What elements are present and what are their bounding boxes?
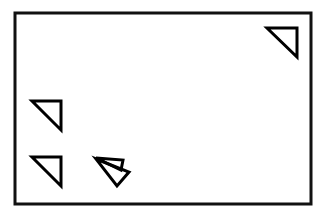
triangle-bottom-left bbox=[32, 157, 61, 186]
triangle-top-right bbox=[267, 28, 297, 57]
triangle-left-middle bbox=[32, 101, 61, 130]
figure-canvas: Line drawing of a rectangular frame cont… bbox=[0, 0, 322, 217]
outer-rectangle bbox=[15, 13, 311, 204]
shapes-figure: Line drawing of a rectangular frame cont… bbox=[0, 0, 322, 217]
triangle-center-large bbox=[96, 159, 129, 186]
